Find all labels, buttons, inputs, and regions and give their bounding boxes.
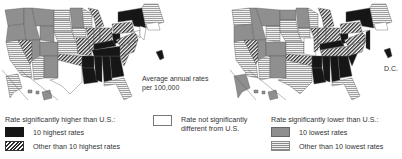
- legend-item-10-lowest: 10 lowest rates: [271, 127, 347, 137]
- state-hi-3: [268, 90, 278, 100]
- state-sd: [54, 20, 72, 32]
- state-dc: [384, 48, 392, 58]
- state-az: [258, 56, 270, 80]
- state-mt: [32, 8, 54, 26]
- state-mn: [296, 8, 310, 28]
- state-mi: [318, 8, 334, 28]
- us-map-right: [200, 0, 402, 105]
- state-wa: [232, 8, 252, 26]
- state-hi-2: [262, 91, 265, 94]
- legend-not-different-line1: Rate not significantly: [181, 115, 247, 124]
- state-ut: [258, 40, 266, 60]
- state-nj: [140, 26, 146, 40]
- legend-item-10-highest: 10 highest rates: [5, 127, 84, 137]
- state-ia: [298, 28, 310, 38]
- map-caption: Average annual rates per 100,000: [142, 74, 208, 92]
- legend-label: Other than 10 lowest rates: [299, 142, 383, 151]
- state-ks: [286, 42, 304, 54]
- caption-line2: per 100,000: [142, 83, 208, 92]
- state-fl: [332, 78, 360, 100]
- state-nd: [280, 10, 296, 20]
- state-ut: [32, 40, 40, 60]
- legend-not-different-line2: different from U.S.: [181, 124, 247, 133]
- legend-item-other-higher: Other than 10 highest rates: [5, 141, 120, 151]
- state-hi-2: [36, 91, 39, 94]
- legend-label: Other than 10 highest rates: [33, 142, 120, 151]
- state-az: [32, 56, 44, 80]
- state-ne: [54, 32, 76, 42]
- state-ar: [82, 56, 94, 68]
- state-co: [266, 42, 286, 56]
- state-pa: [340, 22, 362, 34]
- solid-gray-swatch-icon: [271, 127, 290, 137]
- state-fl: [104, 78, 132, 100]
- legend-label: 10 lowest rates: [299, 128, 347, 137]
- state-nm: [44, 56, 58, 78]
- state-hi-1: [254, 90, 258, 93]
- state-hi-1: [28, 90, 32, 93]
- state-nm: [270, 56, 286, 78]
- state-mn: [70, 8, 84, 28]
- state-ia: [72, 28, 86, 38]
- state-wy: [266, 26, 280, 42]
- state-ar: [312, 56, 322, 68]
- white-swatch-icon: [153, 115, 172, 126]
- solid-black-swatch-icon: [5, 127, 24, 137]
- state-dc: [156, 50, 164, 60]
- state-wa: [5, 8, 24, 26]
- state-co: [40, 42, 58, 56]
- state-or: [234, 24, 254, 42]
- state-wy: [40, 26, 54, 42]
- hatch-swatch-icon: [5, 141, 24, 151]
- legend-higher-heading: Rate significantly higher than U.S.:: [5, 115, 115, 124]
- state-nj: [366, 30, 370, 50]
- horizontal-lines-swatch-icon: [271, 141, 290, 151]
- legend-item-not-different: Rate not significantly different from U.…: [153, 115, 247, 133]
- state-sd: [280, 20, 298, 32]
- caption-line1: Average annual rates: [142, 74, 208, 83]
- state-pa: [112, 22, 134, 34]
- state-ks: [58, 42, 78, 54]
- legend-label: 10 highest rates: [33, 128, 84, 137]
- state-nd: [54, 10, 70, 20]
- state-or: [6, 24, 26, 42]
- legend-item-other-lower: Other than 10 lowest rates: [271, 141, 383, 151]
- state-ne: [280, 32, 302, 42]
- state-wi: [308, 8, 318, 28]
- legend-not-different-label: Rate not significantly different from U.…: [181, 115, 247, 133]
- legend-lower-heading: Rate significantly lower than U.S.:: [271, 115, 378, 124]
- dc-label: D.C.: [384, 65, 398, 72]
